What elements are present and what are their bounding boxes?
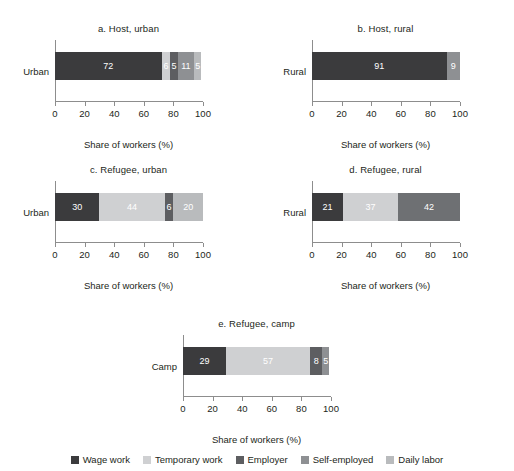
panel-a-tick-label: 60	[139, 108, 150, 119]
panel-c-tick	[55, 243, 56, 247]
panel-c-tick	[114, 243, 115, 247]
legend-item-label: Daily labor	[398, 454, 443, 465]
panel-c-x-axis	[55, 242, 203, 243]
legend-item[interactable]: Self-employed	[301, 454, 374, 465]
panel-b-tick-label: 40	[366, 108, 377, 119]
panel-a-tick	[203, 102, 204, 106]
panel-c-tick-label: 60	[139, 249, 150, 260]
panel-d-tick-label: 0	[309, 249, 314, 260]
panel-e-tick-label: 100	[323, 403, 339, 414]
legend-swatch-icon	[301, 456, 309, 464]
panel-e: e. Refugee, camp Camp 295785 02040608010…	[128, 317, 385, 445]
legend-item-label: Employer	[248, 454, 288, 465]
bar-segment: 91	[312, 52, 447, 80]
panel-d-tick	[371, 243, 372, 247]
panel-d-tick-label: 40	[366, 249, 377, 260]
panel-e-tick	[331, 397, 332, 401]
legend-swatch-icon	[71, 456, 79, 464]
panel-e-bar: 295785	[183, 347, 331, 375]
panel-d-category-label: Rural	[283, 207, 306, 218]
panel-d-tick-label: 80	[425, 249, 436, 260]
panel-b-tick	[342, 102, 343, 106]
panel-a-tick-label: 0	[52, 108, 57, 119]
panel-c-tick-label: 40	[109, 249, 120, 260]
bar-segment: 42	[398, 193, 460, 221]
bar-segment: 44	[99, 193, 164, 221]
panel-e-plot: Camp 295785 020406080100	[183, 335, 331, 397]
panel-c-tick-label: 80	[168, 249, 179, 260]
panel-c-tick	[173, 243, 174, 247]
legend-item[interactable]: Daily labor	[386, 454, 443, 465]
panel-a-category-label: Urban	[23, 66, 49, 77]
panel-c-tick-label: 100	[195, 249, 211, 260]
panel-d-tick-label: 20	[336, 249, 347, 260]
legend-swatch-icon	[386, 456, 394, 464]
panel-b-tick	[401, 102, 402, 106]
panel-b-bar: 919	[312, 52, 460, 80]
panel-a-tick-label: 100	[195, 108, 211, 119]
panel-c-tick	[144, 243, 145, 247]
bar-segment: 5	[194, 52, 201, 80]
panel-a-tick	[173, 102, 174, 106]
bar-segment: 72	[55, 52, 162, 80]
panel-e-tick	[301, 397, 302, 401]
panel-a-tick-label: 20	[79, 108, 90, 119]
panel-d-tick	[342, 243, 343, 247]
bar-segment: 5	[322, 347, 329, 375]
panel-b-category-label: Rural	[283, 66, 306, 77]
panel-d-tick-label: 60	[396, 249, 407, 260]
panel-e-tick-label: 80	[296, 403, 307, 414]
panel-e-tick-label: 20	[207, 403, 218, 414]
panel-c-tick	[203, 243, 204, 247]
bar-segment: 5	[170, 52, 177, 80]
bar-segment: 9	[447, 52, 460, 80]
panel-b-tick	[460, 102, 461, 106]
panel-b-tick-label: 20	[336, 108, 347, 119]
legend-item-label: Self-employed	[313, 454, 374, 465]
figure-root: a. Host, urban Urban 7265115 02040608010…	[0, 0, 514, 471]
panel-e-axis-title: Share of workers (%)	[128, 434, 385, 445]
legend-swatch-icon	[143, 456, 151, 464]
panel-c-tick	[85, 243, 86, 247]
panel-a-tick	[114, 102, 115, 106]
bar-segment: 21	[312, 193, 343, 221]
panel-a-axis-title: Share of workers (%)	[0, 139, 257, 150]
panel-c-plot: Urban 3044620 020406080100	[55, 181, 203, 243]
panel-a-tick-label: 80	[168, 108, 179, 119]
legend-item-label: Temporary work	[155, 454, 223, 465]
panel-b-tick	[371, 102, 372, 106]
panel-d-title: d. Refugee, rural	[257, 163, 514, 176]
panel-b: b. Host, rural Rural 919 020406080100 Sh…	[257, 22, 514, 150]
bar-segment: 11	[178, 52, 194, 80]
bar-segment: 6	[162, 52, 171, 80]
panel-b-plot: Rural 919 020406080100	[312, 40, 460, 102]
panel-d: d. Refugee, rural Rural 213742 020406080…	[257, 163, 514, 291]
panel-a-tick	[85, 102, 86, 106]
panel-d-axis-title: Share of workers (%)	[257, 280, 514, 291]
bar-segment: 30	[55, 193, 99, 221]
bar-segment: 20	[173, 193, 203, 221]
panel-d-tick	[430, 243, 431, 247]
panel-a-x-axis	[55, 101, 203, 102]
panel-b-tick-label: 100	[452, 108, 468, 119]
bar-segment: 8	[310, 347, 322, 375]
panel-c-tick-label: 0	[52, 249, 57, 260]
panel-a-tick	[55, 102, 56, 106]
panel-b-title: b. Host, rural	[257, 22, 514, 35]
panel-d-tick	[401, 243, 402, 247]
legend-item[interactable]: Temporary work	[143, 454, 223, 465]
panel-d-x-axis	[312, 242, 460, 243]
panel-e-tick-label: 40	[237, 403, 248, 414]
panel-a-tick-label: 40	[109, 108, 120, 119]
panel-b-axis-title: Share of workers (%)	[257, 139, 514, 150]
bar-segment: 57	[226, 347, 310, 375]
panel-a-title: a. Host, urban	[0, 22, 257, 35]
legend-item-label: Wage work	[83, 454, 130, 465]
panel-c-tick-label: 20	[79, 249, 90, 260]
panel-e-tick	[242, 397, 243, 401]
bar-segment: 6	[165, 193, 174, 221]
bar-segment: 37	[343, 193, 398, 221]
panel-c-category-label: Urban	[23, 207, 49, 218]
legend-item[interactable]: Wage work	[71, 454, 130, 465]
legend-item[interactable]: Employer	[236, 454, 288, 465]
